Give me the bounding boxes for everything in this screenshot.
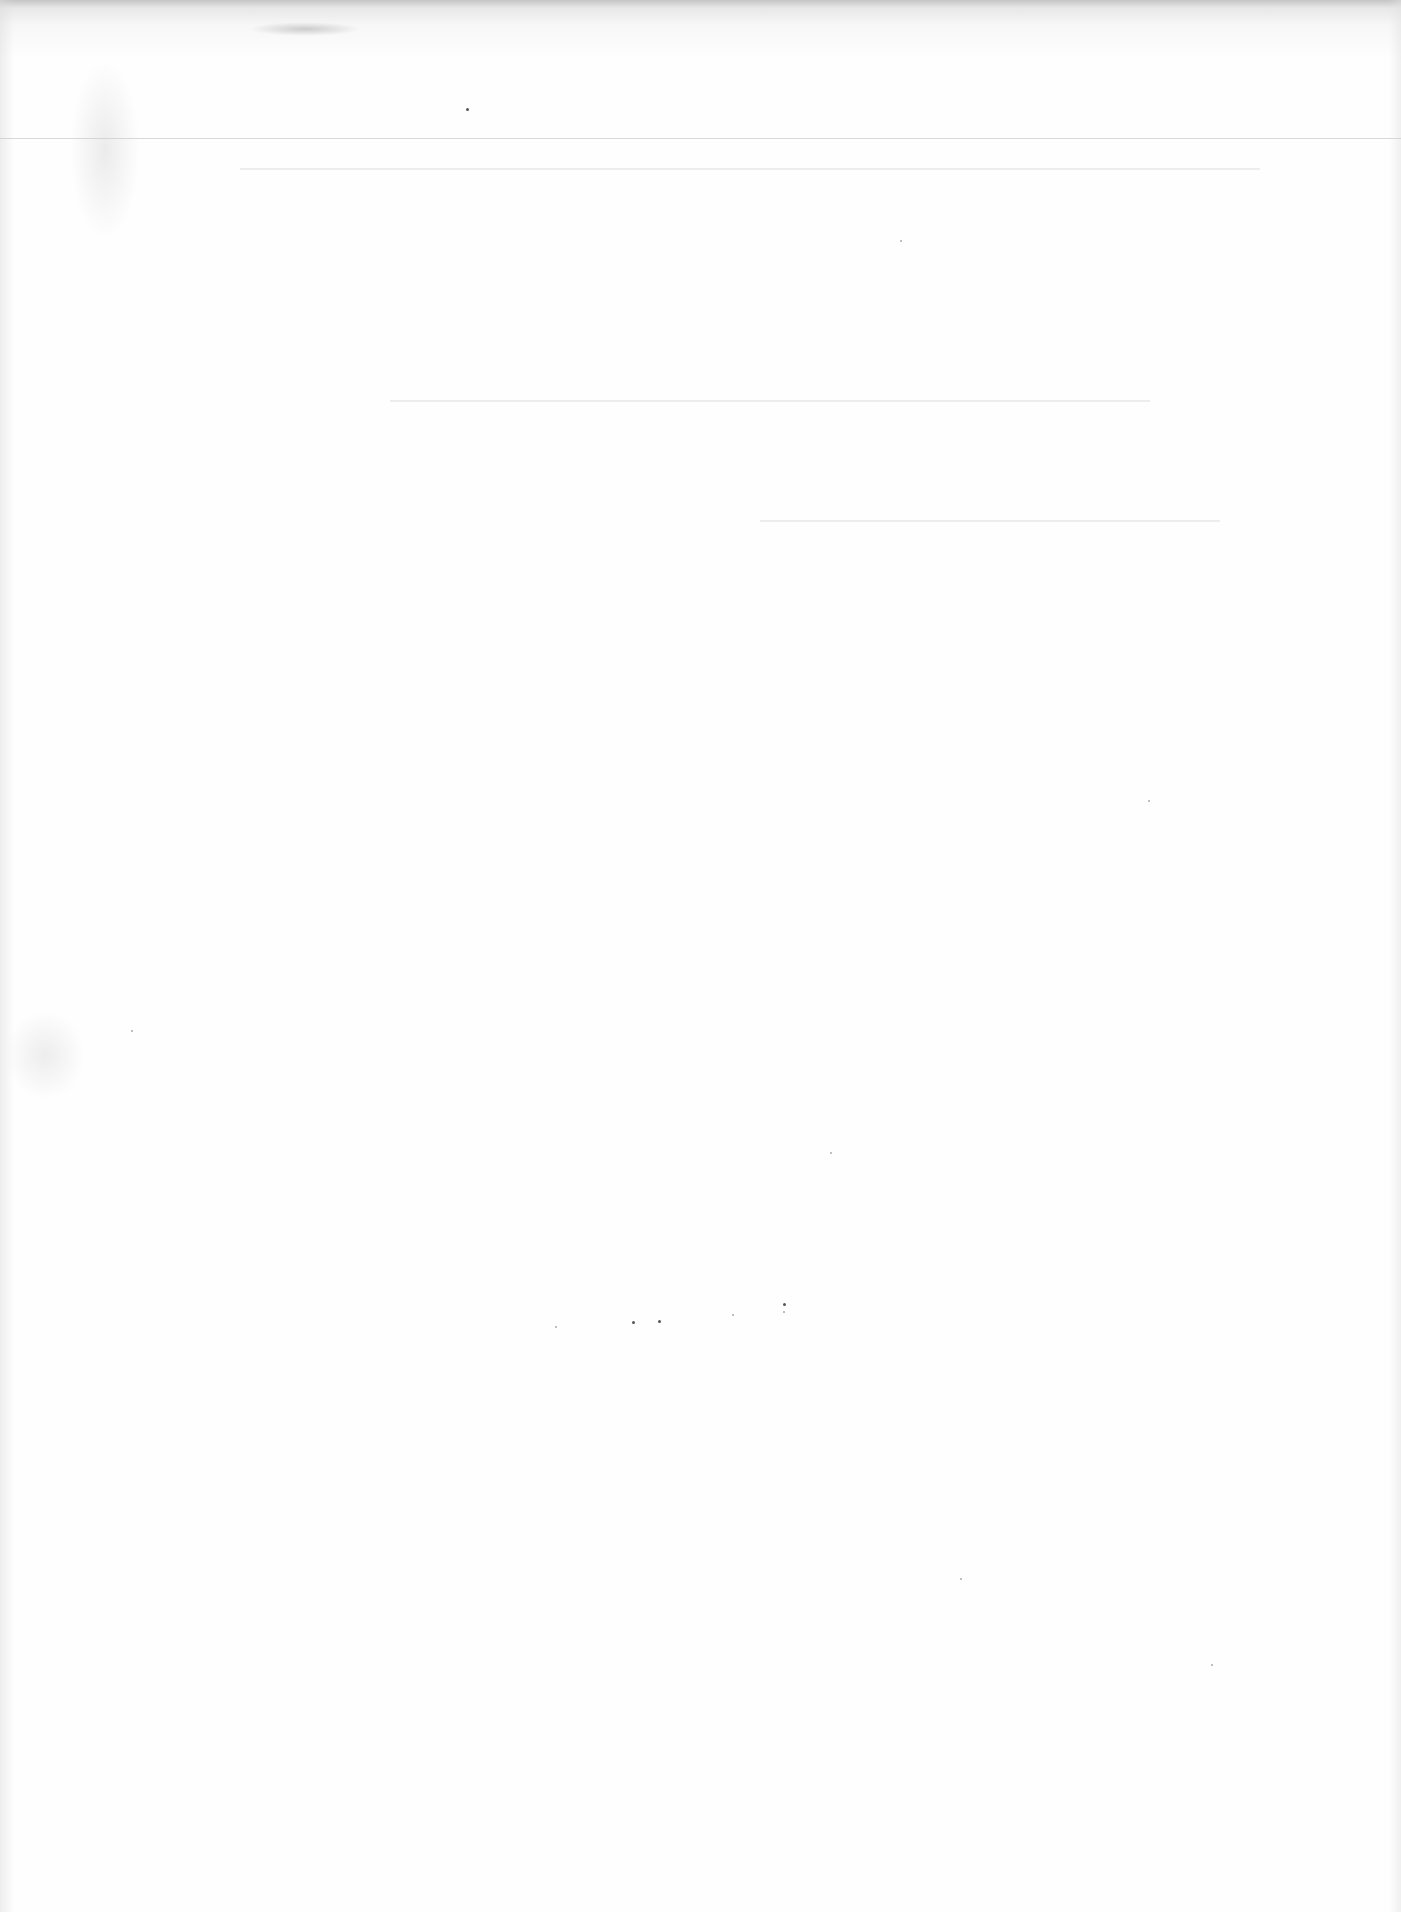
dust-speck — [830, 1152, 832, 1154]
bleed-through-rule — [0, 138, 1401, 139]
scan-smudge — [250, 22, 360, 36]
dust-speck — [658, 1320, 661, 1323]
dust-speck — [1148, 800, 1150, 802]
bleed-through-line — [390, 400, 1150, 402]
dust-speck — [632, 1321, 635, 1324]
dust-speck — [1211, 1664, 1213, 1666]
dust-speck — [900, 240, 902, 242]
bleed-through-line — [760, 520, 1220, 522]
margin-speckle — [5, 1010, 85, 1100]
bleed-through-line — [240, 168, 1260, 170]
dust-speck — [960, 1578, 962, 1580]
scan-right-edge — [1389, 0, 1401, 1912]
dust-speck — [732, 1314, 734, 1316]
scan-left-edge — [0, 0, 14, 1912]
dust-speck — [555, 1326, 557, 1328]
margin-speckle — [70, 60, 140, 240]
dust-speck — [783, 1311, 785, 1313]
blank-scanned-page — [0, 0, 1401, 1912]
scan-top-shadow — [0, 0, 1401, 60]
dust-speck — [783, 1303, 786, 1306]
dust-speck — [131, 1030, 133, 1032]
dust-speck — [466, 108, 469, 111]
